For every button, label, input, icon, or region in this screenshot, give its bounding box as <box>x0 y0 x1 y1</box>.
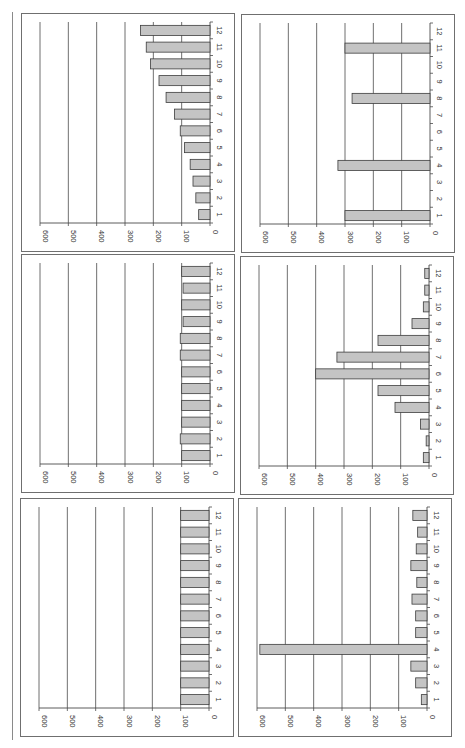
value-axis-tick-label: 300 <box>346 231 355 244</box>
bar <box>199 210 210 220</box>
category-axis-tick-label: 2 <box>435 197 444 201</box>
bar-chart-svg: 6005004003002001000123456789101112 <box>241 257 455 496</box>
value-axis-tick-label: 0 <box>210 715 219 719</box>
value-axis-tick-label: 200 <box>154 230 163 243</box>
value-axis-tick-label: 500 <box>69 230 78 243</box>
bar <box>182 384 210 394</box>
bar <box>316 369 429 379</box>
category-axis-tick-label: 3 <box>435 180 444 184</box>
value-axis-tick-label: 300 <box>126 471 135 484</box>
category-axis-tick-label: 4 <box>215 403 224 407</box>
bar <box>183 283 210 293</box>
bar <box>159 76 210 86</box>
category-axis-tick-label: 2 <box>214 681 223 685</box>
category-axis-tick-label: 4 <box>432 647 441 651</box>
bar <box>182 451 210 461</box>
bar <box>181 644 209 654</box>
value-axis-tick-label: 100 <box>181 715 190 728</box>
bar-chart-svg: 6005004003002001000123456789101112 <box>22 255 236 494</box>
value-axis-tick-label: 0 <box>211 230 220 234</box>
category-axis-tick-label: 9 <box>434 322 443 326</box>
category-axis-tick-label: 7 <box>432 597 441 601</box>
category-axis-tick-label: 4 <box>434 405 443 409</box>
bar <box>412 594 427 604</box>
bar <box>417 577 427 587</box>
value-axis-tick-label: 200 <box>153 715 162 728</box>
category-axis-tick-label: 8 <box>215 95 224 99</box>
category-axis-tick-label: 11 <box>215 43 224 51</box>
category-axis-tick-label: 12 <box>434 269 443 277</box>
value-axis-tick-label: 400 <box>317 231 326 244</box>
value-axis-tick-label: 0 <box>428 715 437 719</box>
bar <box>182 367 210 377</box>
category-axis-tick-label: 12 <box>214 511 223 519</box>
bar <box>423 302 429 312</box>
value-axis-tick-label: 100 <box>402 231 411 244</box>
category-axis-tick-label: 4 <box>435 163 444 167</box>
value-axis-tick-label: 200 <box>371 715 380 728</box>
bar <box>181 561 209 571</box>
value-axis-tick-label: 500 <box>286 715 295 728</box>
page-margin-line <box>12 12 13 740</box>
value-axis-tick-label: 100 <box>401 473 410 486</box>
category-axis-tick-label: 1 <box>432 698 441 702</box>
category-axis-tick-label: 3 <box>214 664 223 668</box>
value-axis-tick-label: 600 <box>261 231 270 244</box>
category-axis-tick-label: 2 <box>434 439 443 443</box>
category-axis-tick-label: 10 <box>432 545 441 553</box>
bar-chart-svg: 6005004003002001000123456789101112 <box>21 499 235 738</box>
bar <box>416 544 427 554</box>
bar <box>146 42 210 52</box>
category-axis-tick-label: 11 <box>434 286 443 294</box>
chart-middle-right: 6005004003002001000123456789101112 <box>240 256 454 495</box>
category-axis-tick-label: 8 <box>432 580 441 584</box>
category-axis-tick-label: 12 <box>432 511 441 519</box>
bar <box>421 695 427 705</box>
category-axis-tick-label: 10 <box>435 61 444 69</box>
chart-middle-left: 6005004003002001000123456789101112 <box>21 254 235 493</box>
bar <box>181 577 209 587</box>
bar <box>181 594 209 604</box>
category-axis-tick-label: 5 <box>215 387 224 391</box>
value-axis-tick-label: 600 <box>40 715 49 728</box>
bar <box>416 628 427 638</box>
category-axis-tick-label: 1 <box>435 214 444 218</box>
bar <box>260 644 427 654</box>
value-axis-tick-label: 500 <box>289 231 298 244</box>
bar <box>413 510 427 520</box>
category-axis-tick-label: 7 <box>435 113 444 117</box>
bar-chart-svg: 6005004003002001000123456789101112 <box>22 14 236 253</box>
category-axis-tick-label: 9 <box>214 564 223 568</box>
bar <box>181 678 209 688</box>
value-axis-tick-label: 0 <box>431 231 440 235</box>
category-axis-tick-label: 6 <box>435 130 444 134</box>
bar <box>352 93 430 103</box>
bar <box>151 59 211 69</box>
bar-chart-svg: 6005004003002001000123456789101112 <box>239 499 453 738</box>
value-axis-tick-label: 200 <box>154 471 163 484</box>
category-axis-tick-label: 10 <box>434 303 443 311</box>
category-axis-tick-label: 11 <box>214 528 223 536</box>
category-axis-tick-label: 9 <box>215 320 224 324</box>
value-axis-tick-label: 600 <box>260 473 269 486</box>
category-axis-tick-label: 12 <box>435 27 444 35</box>
category-axis-tick-label: 8 <box>214 580 223 584</box>
bar <box>180 333 210 343</box>
category-axis-tick-label: 11 <box>215 284 224 292</box>
bar <box>193 176 210 186</box>
category-axis-tick-label: 2 <box>215 437 224 441</box>
category-axis-tick-label: 11 <box>432 528 441 536</box>
bar <box>416 611 427 621</box>
category-axis-tick-label: 10 <box>215 60 224 68</box>
bar <box>190 159 210 169</box>
bar <box>378 335 429 345</box>
bar <box>182 400 210 410</box>
category-axis-tick-label: 8 <box>435 96 444 100</box>
bar <box>181 544 209 554</box>
bar <box>338 160 430 170</box>
value-axis-tick-label: 200 <box>373 473 382 486</box>
category-axis-tick-label: 6 <box>214 614 223 618</box>
bar <box>181 661 209 671</box>
value-axis-tick-label: 100 <box>182 230 191 243</box>
bar <box>196 193 210 203</box>
